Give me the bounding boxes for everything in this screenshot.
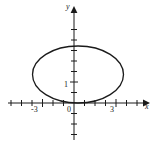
x-axis-label: x: [145, 103, 149, 111]
x-tick-label-neg3: -3: [31, 106, 38, 114]
y-axis-arrowhead: [71, 6, 78, 13]
coordinate-plane-svg: [0, 0, 160, 146]
y-tick-label-one: 1: [64, 81, 68, 89]
ellipse-curve: [33, 46, 124, 103]
graph-figure: -3 3 0 1 x y: [0, 0, 160, 146]
y-axis-label: y: [66, 3, 70, 11]
x-tick-label-pos3: 3: [110, 106, 114, 114]
origin-label: 0: [67, 106, 71, 114]
